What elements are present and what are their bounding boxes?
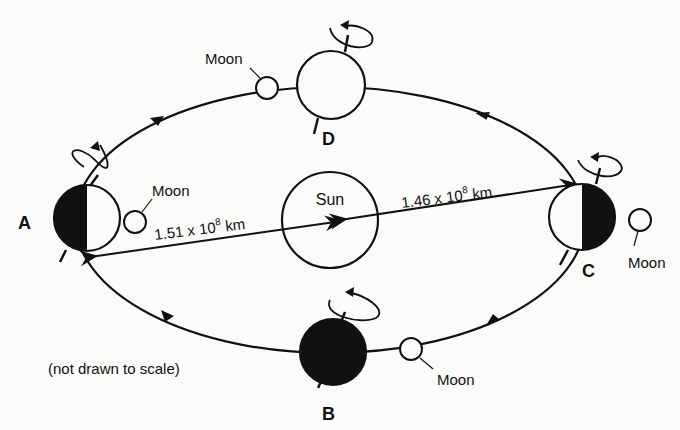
moon-label-c: Moon [628,254,666,271]
moon-label-d: Moon [205,50,243,67]
position-label-b: B [322,404,335,424]
moon-d [256,77,278,99]
position-label-a: A [18,213,31,233]
rotation-arrow-icon [330,26,373,48]
position-label-d: D [322,129,335,149]
earth-position-b: B Moon [300,287,475,424]
sun: Sun [282,172,378,268]
moon-label-b: Moon [437,371,475,388]
distance-label-a: 1.51 x 108 km [153,213,246,243]
diagram-canvas: Sun 1.51 x 108 km 1.46 x 108 km A Moon B… [0,0,680,430]
moon-b [400,338,422,360]
moon-a [124,211,146,233]
moon-c [629,209,651,231]
moon-label-a: Moon [152,182,190,199]
sun-label: Sun [316,191,344,208]
rotation-arrow-icon [329,293,379,320]
rotation-arrow-icon [72,145,107,168]
distance-label-c: 1.46 x 108 km [400,181,493,211]
rotation-arrow-icon [578,156,622,176]
earth-orbit-diagram: Sun 1.51 x 108 km 1.46 x 108 km A Moon B… [0,0,680,430]
scale-note: (not drawn to scale) [48,360,180,377]
earth-position-d: D Moon [205,20,373,149]
position-label-c: C [582,261,595,281]
